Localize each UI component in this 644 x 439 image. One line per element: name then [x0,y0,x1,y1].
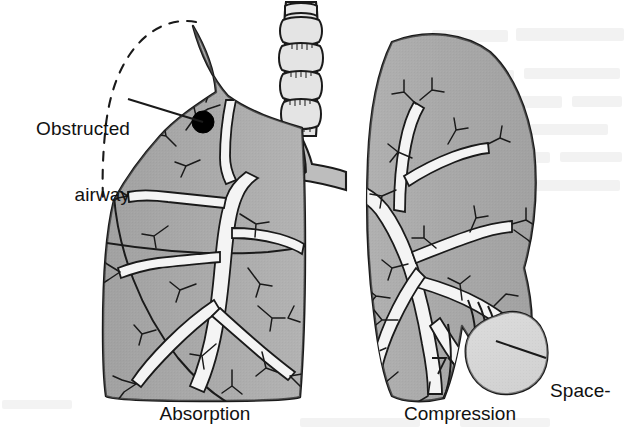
space-occupying-lesion-label-line1: Space- [550,380,642,402]
tracheal-cartilage-rings [279,3,323,129]
caption-absorption: Absorption [130,403,280,425]
trachea [279,2,323,136]
caption-compression: Compression [375,403,545,425]
space-occupying-lesion-label: Space- occupying lesion [550,336,642,439]
obstructed-airway-label: Obstructed airway [6,74,130,228]
obstructed-airway-label-line1: Obstructed [6,118,130,140]
space-occupying-lesion [466,312,548,394]
obstructed-airway-label-line2: airway [6,184,130,206]
